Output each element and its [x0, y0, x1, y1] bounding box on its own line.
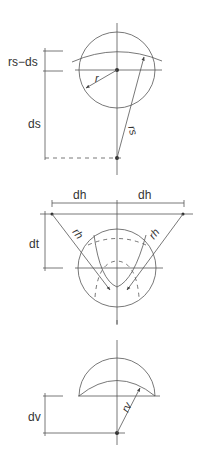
label-rh-right: rh [146, 226, 161, 241]
label-ds: ds [28, 117, 41, 131]
geometry-diagram: rs−ds ds r rs dh dh dt rh rh [0, 0, 202, 454]
vertical-section-diagram: dv rv [28, 320, 160, 445]
horizontal-section-diagram: dh dh dt rh rh [29, 188, 193, 325]
radius-rh-right-arrow [127, 214, 183, 290]
label-rv: rv [119, 399, 134, 414]
label-dh-right: dh [138, 188, 151, 202]
label-dt: dt [29, 237, 40, 251]
label-dh-left: dh [73, 188, 86, 202]
label-rs: rs [126, 124, 140, 136]
sphere-section-diagram: rs−ds ds r rs [8, 23, 162, 175]
label-r: r [95, 72, 100, 84]
label-rs-minus-ds: rs−ds [8, 55, 38, 69]
label-dv: dv [28, 410, 41, 424]
label-rh-left: rh [70, 226, 85, 241]
radius-r-arrow [86, 70, 117, 88]
radius-rh-left-arrow [52, 214, 110, 290]
